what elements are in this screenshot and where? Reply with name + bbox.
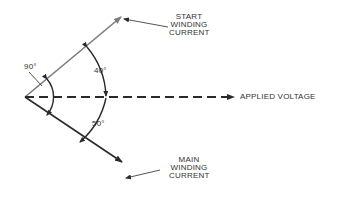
angle-label-90: 90° [24,63,37,71]
leader-start [124,19,168,27]
applied-voltage-label: APPLIED VOLTAGE [240,93,316,101]
start-winding-vector [25,17,121,97]
main-winding-vector [25,97,122,162]
angle-label-40: 40° [94,67,107,75]
angle-label-50: 50° [92,120,105,128]
leader-main [126,170,160,178]
start-winding-line-3: CURRENT [169,29,209,37]
leader-90 [29,72,42,86]
main-winding-line-3: CURRENT [169,172,209,180]
start-winding-label: START WINDING CURRENT [169,13,209,37]
main-winding-label: MAIN WINDING CURRENT [169,156,209,180]
